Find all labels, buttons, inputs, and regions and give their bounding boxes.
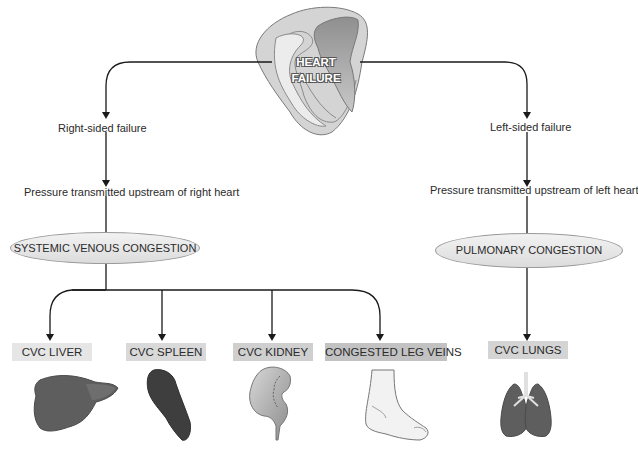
right-pressure-label: Pressure transmitted upstream of right h… bbox=[24, 186, 239, 198]
kidney-illustration bbox=[250, 367, 291, 440]
pulmonary-congestion-label: PULMONARY CONGESTION bbox=[456, 244, 602, 256]
spleen-illustration bbox=[147, 370, 190, 441]
right-sided-failure-label: Right-sided failure bbox=[58, 122, 147, 134]
systemic-venous-congestion-ellipse: SYSTEMIC VENOUS CONGESTION bbox=[10, 232, 200, 264]
lungs-illustration bbox=[501, 372, 551, 437]
foot-illustration bbox=[366, 370, 428, 440]
left-pressure-label: Pressure transmitted upstream of left he… bbox=[430, 184, 638, 196]
arrowheads bbox=[46, 112, 531, 341]
cvc-lungs-box: CVC LUNGS bbox=[488, 341, 568, 359]
heart-failure-title: HEART FAILURE bbox=[272, 54, 360, 70]
cvc-liver-box: CVC LIVER bbox=[12, 343, 92, 361]
cvc-kidney-box: CVC KIDNEY bbox=[233, 343, 313, 361]
left-sided-failure-label: Left-sided failure bbox=[490, 121, 571, 133]
systemic-venous-congestion-label: SYSTEMIC VENOUS CONGESTION bbox=[14, 242, 197, 254]
liver-illustration bbox=[34, 376, 118, 432]
congested-leg-veins-box: CONGESTED LEG VEINS bbox=[325, 343, 447, 361]
cvc-spleen-box: CVC SPLEEN bbox=[126, 343, 206, 361]
pulmonary-congestion-ellipse: PULMONARY CONGESTION bbox=[435, 233, 623, 268]
